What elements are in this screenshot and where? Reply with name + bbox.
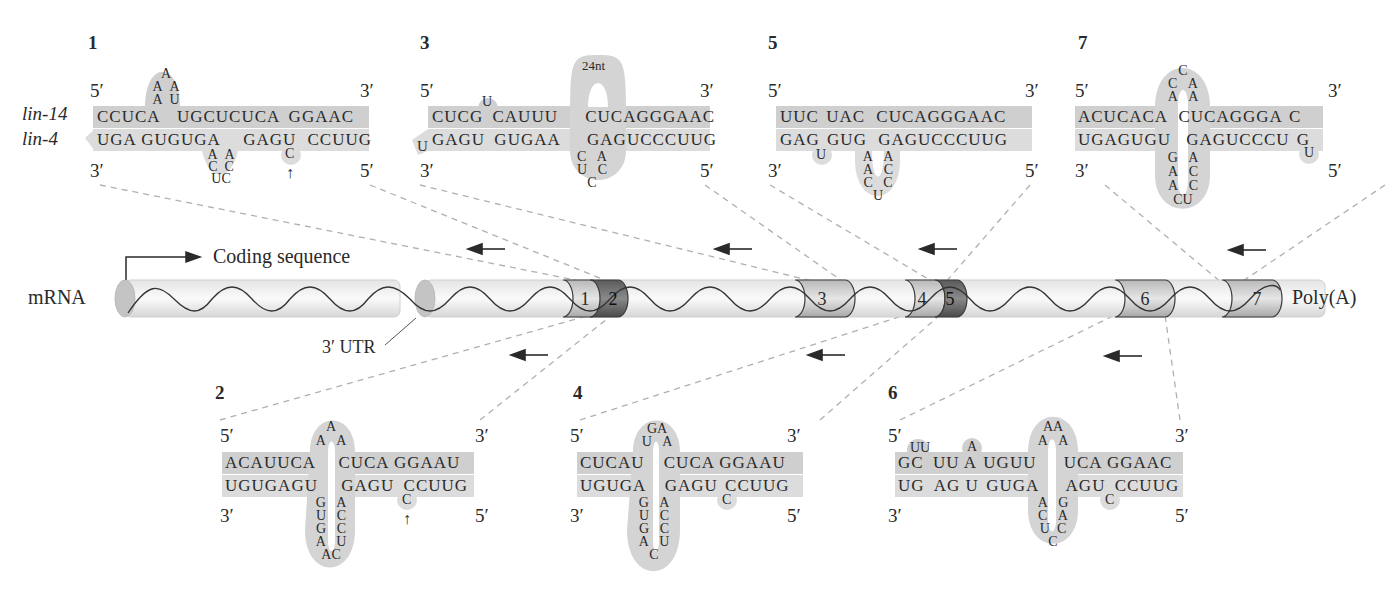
- seq-top-b: CUCA GGAAU: [664, 453, 786, 472]
- loop-bottom: A A A C C C U: [857, 150, 899, 202]
- five-prime-bottom: 5′: [1025, 160, 1039, 182]
- svg-text:1: 1: [581, 289, 590, 309]
- seq-top-c: CUCAGGGAAC: [585, 107, 715, 126]
- seq-top-b: CUCAGGGA: [1178, 107, 1281, 126]
- seq-bottom-c: GUGA: [986, 476, 1038, 495]
- loop-bottom: C A U C C: [572, 150, 612, 189]
- panel-1: 1 5′ 3′ 3′ 5′ CCUCA UGCUCUCA GGAAC UGA G…: [85, 30, 385, 190]
- seq-bottom-e: CCUUG: [1115, 476, 1180, 495]
- seq-bottom-a: GAGU: [432, 130, 485, 149]
- loop-bottom: A G C A U C C: [1030, 496, 1076, 548]
- three-prime-bottom: 3′: [1075, 160, 1089, 182]
- loop-bottom: A A C C UC: [203, 149, 239, 185]
- svg-text:6: 6: [1141, 289, 1150, 309]
- three-prime-bottom: 3′: [420, 160, 434, 182]
- coding-sequence-label: Coding sequence: [213, 245, 350, 268]
- seq-top-d: UCA GGAAC: [1064, 453, 1173, 472]
- seq-top-a: CUCG: [432, 107, 483, 126]
- loop-top: A A A A U: [149, 67, 183, 106]
- seq-bottom-b: GAGU: [665, 476, 718, 495]
- seq-bottom-b: GAGUCCCU: [1186, 130, 1289, 149]
- seq-bottom-c: CCUUG: [725, 476, 790, 495]
- bulge-nucleotide: C: [285, 146, 294, 162]
- svg-text:2: 2: [609, 289, 618, 309]
- panel-4: 4 5′ 3′ 3′ 5′ CUCAU CUCA GGAAU UGUGA GAG…: [565, 380, 835, 580]
- seq-bottom-c: CCUUG: [404, 476, 469, 495]
- loop-top: C C A A A: [1158, 64, 1208, 103]
- seq-top-b: UAC: [826, 107, 865, 126]
- svg-text:7: 7: [1253, 289, 1262, 309]
- panel-5: 5 5′ 3′ 3′ 5′ UUC UAC CUCAGGGAAC GAG GUG…: [760, 30, 1050, 200]
- five-prime-bottom: 5′: [360, 160, 374, 182]
- seq-top-a: ACAUUCA: [225, 453, 315, 472]
- seq-bottom-a: UG: [898, 476, 925, 495]
- three-prime-top: 3′: [1025, 80, 1039, 102]
- bulge-nucleotide: U: [1304, 145, 1314, 161]
- seq-bottom-b: AG U: [934, 476, 979, 495]
- three-prime-top: 3′: [1175, 425, 1189, 447]
- seq-top-b: UGCUCUCA: [177, 107, 279, 126]
- lin4-label: lin-4: [22, 128, 58, 150]
- seq-top-a: GC: [898, 453, 924, 472]
- loop-bottom: G A U C G C A U AC: [308, 496, 354, 561]
- svg-text:4: 4: [918, 289, 927, 309]
- bulge-bottom: U: [417, 138, 428, 155]
- seq-bottom-c: CCUUG: [307, 130, 372, 149]
- seq-top-a: ACUCACA: [1078, 107, 1167, 126]
- five-prime-top: 5′: [570, 425, 584, 447]
- seq-bottom-a: UGUGA: [580, 476, 645, 495]
- mrna-tube-utr: [415, 280, 1325, 317]
- seq-top-c: CUCAGGGAAC: [876, 107, 1006, 126]
- seq-bottom-a: UGAGUGU: [1078, 130, 1171, 149]
- five-prime-bottom: 5′: [1175, 505, 1189, 527]
- seq-top-b: CAUUU: [492, 107, 557, 126]
- five-prime-top: 5′: [1075, 80, 1089, 102]
- seq-top-c: C: [1289, 107, 1301, 126]
- three-prime-top: 3′: [360, 80, 374, 102]
- seq-bottom-a: UGUGAGU: [225, 476, 318, 495]
- five-prime-top: 5′: [768, 80, 782, 102]
- seq-bottom-b: GUGAA: [494, 130, 559, 149]
- lin14-label: lin-14: [22, 103, 67, 125]
- three-prime-bottom: 3′: [570, 505, 584, 527]
- seq-top-a: CUCAU: [580, 453, 645, 472]
- loop-size-label: 24nt: [582, 58, 605, 74]
- five-prime-top: 5′: [888, 425, 902, 447]
- seq-top-a: CCUCA: [97, 107, 160, 126]
- seq-top-a: UUC: [780, 107, 819, 126]
- five-prime-bottom: 5′: [1328, 160, 1342, 182]
- five-prime-top: 5′: [90, 80, 104, 102]
- polya-label: Poly(A): [1292, 286, 1356, 309]
- seq-bottom-c: GAGUCCCUUG: [587, 130, 717, 149]
- bulge-nucleotide: C: [722, 492, 731, 508]
- bulge-nucleotide: C: [402, 492, 411, 508]
- loop-top: A A A: [310, 420, 352, 448]
- loop-bottom: G A U C G C A U C: [631, 496, 677, 561]
- bulge-nucleotide: C: [1105, 492, 1114, 508]
- seq-top-c: GGAAC: [289, 107, 354, 126]
- three-prime-bottom: 3′: [768, 160, 782, 182]
- utr-label: 3′ UTR: [322, 337, 375, 358]
- seq-top-b: UU A: [933, 453, 976, 472]
- seq-bottom-b: GUG: [827, 130, 867, 149]
- seq-bottom-a: UGA GUGUGA: [97, 130, 220, 149]
- loop-top: GA U A: [635, 422, 679, 448]
- panel-2: 2 5′ 3′ 3′ 5′ ACAUUCA CUCA GGAAU UGUGAGU…: [210, 380, 510, 580]
- panel-3: 3 24nt 5′ 3′ 3′ 5′ U U CUCG CAUUU CUCAGG…: [410, 30, 720, 190]
- three-prime-top: 3′: [787, 425, 801, 447]
- three-prime-bottom: 3′: [90, 160, 104, 182]
- three-prime-top: 3′: [700, 80, 714, 102]
- five-prime-top: 5′: [220, 425, 234, 447]
- three-prime-bottom: 3′: [220, 505, 234, 527]
- loop-top: AA A A: [1030, 420, 1076, 448]
- five-prime-top: 5′: [420, 80, 434, 102]
- loop-bottom: G A A C A C CU: [1158, 151, 1208, 207]
- seq-bottom-a: GAG: [780, 130, 820, 149]
- panel-7: 7 5′ 3′ 3′ 5′ ACUCACA CUCAGGGA C UGAGUGU…: [1070, 30, 1370, 230]
- five-prime-bottom: 5′: [475, 505, 489, 527]
- seq-top-b: CUCA GGAAU: [338, 453, 460, 472]
- mrna-tube-coding: [115, 280, 400, 317]
- three-prime-top: 3′: [475, 425, 489, 447]
- panel-6: 6 5′ 3′ 3′ 5′ UU A GC UU A UGUU UCA GGAA…: [880, 380, 1200, 580]
- svg-text:3: 3: [818, 289, 827, 309]
